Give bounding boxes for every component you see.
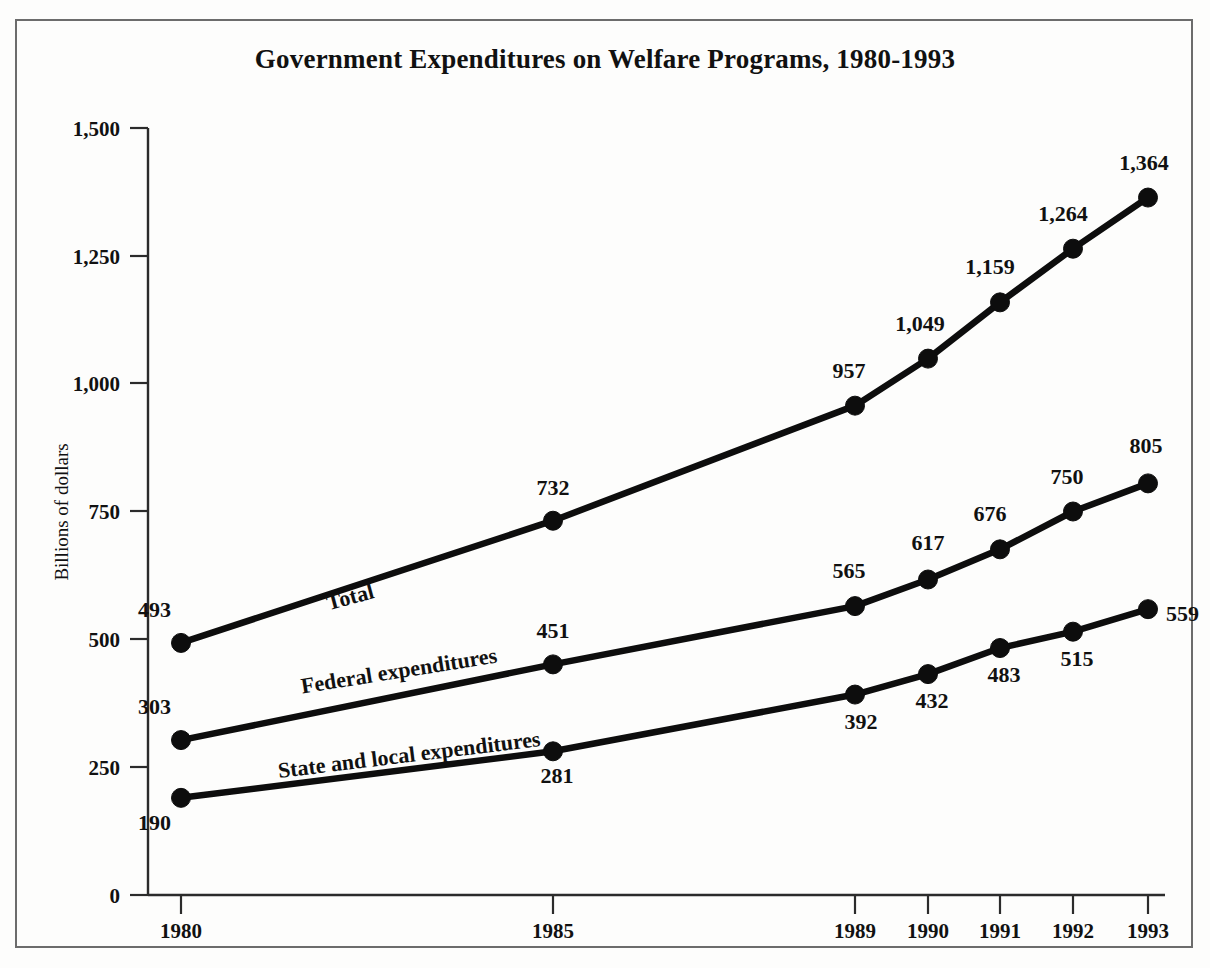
series-label-federal: Federal expenditures bbox=[299, 643, 499, 699]
y-tick-label-750: 750 bbox=[89, 500, 121, 524]
x-axis-ticks bbox=[181, 895, 1148, 914]
y-tick-label-250: 250 bbox=[89, 756, 121, 780]
y-tick-label-500: 500 bbox=[89, 628, 121, 652]
line-chart-plot: Billions of dollars 1,500 1,250 1,000 75… bbox=[0, 0, 1210, 968]
data-point-label: 281 bbox=[541, 763, 574, 788]
data-point-label: 957 bbox=[833, 358, 866, 383]
x-tick-label-1980: 1980 bbox=[160, 919, 202, 943]
data-point-label: 617 bbox=[912, 530, 945, 555]
data-point-label: 805 bbox=[1130, 433, 1163, 458]
x-tick-label-1985: 1985 bbox=[532, 919, 574, 943]
data-point-label: 432 bbox=[916, 688, 949, 713]
data-point-label: 451 bbox=[537, 618, 570, 643]
data-point-label: 515 bbox=[1061, 646, 1094, 671]
data-point-label: 559 bbox=[1166, 601, 1199, 626]
data-point-marker bbox=[991, 293, 1010, 312]
data-point-label: 1,049 bbox=[895, 311, 945, 336]
data-point-label: 750 bbox=[1051, 464, 1084, 489]
data-point-marker bbox=[919, 665, 938, 684]
data-point-marker bbox=[846, 396, 865, 415]
data-point-label: 493 bbox=[138, 597, 171, 622]
data-point-label: 303 bbox=[138, 694, 171, 719]
series-label-total: Total bbox=[324, 578, 377, 615]
x-tick-label-1993: 1993 bbox=[1127, 919, 1169, 943]
x-axis-tick-labels: 1980 1985 1989 1990 1991 1992 1993 bbox=[160, 919, 1169, 943]
series-0: 4937329571,0491,1591,2641,364 bbox=[138, 150, 1169, 653]
data-point-marker bbox=[1139, 188, 1158, 207]
data-point-label: 483 bbox=[988, 662, 1021, 687]
data-point-label: 190 bbox=[138, 810, 171, 835]
x-tick-label-1992: 1992 bbox=[1052, 919, 1094, 943]
data-point-marker bbox=[172, 633, 191, 652]
data-point-marker bbox=[991, 639, 1010, 658]
data-point-marker bbox=[172, 731, 191, 750]
y-axis-ticks bbox=[130, 128, 148, 895]
x-tick-label-1990: 1990 bbox=[907, 919, 949, 943]
y-tick-label-0: 0 bbox=[110, 884, 121, 908]
data-point-marker bbox=[846, 685, 865, 704]
data-point-marker bbox=[544, 511, 563, 530]
data-point-marker bbox=[1064, 502, 1083, 521]
data-point-marker bbox=[1139, 474, 1158, 493]
data-point-marker bbox=[544, 742, 563, 761]
x-tick-label-1989: 1989 bbox=[834, 919, 876, 943]
data-point-label: 1,264 bbox=[1038, 201, 1088, 226]
data-point-marker bbox=[919, 349, 938, 368]
data-point-marker bbox=[544, 655, 563, 674]
x-tick-label-1991: 1991 bbox=[979, 919, 1021, 943]
chart-page: Government Expenditures on Welfare Progr… bbox=[0, 0, 1210, 968]
data-point-marker bbox=[1139, 600, 1158, 619]
data-point-marker bbox=[991, 540, 1010, 559]
series-label-state-local: State and local expenditures bbox=[276, 726, 542, 783]
data-point-marker bbox=[846, 597, 865, 616]
data-point-label: 392 bbox=[845, 709, 878, 734]
data-point-label: 676 bbox=[974, 501, 1007, 526]
data-point-marker bbox=[172, 788, 191, 807]
y-tick-label-1000: 1,000 bbox=[73, 372, 120, 396]
data-point-marker bbox=[1064, 239, 1083, 258]
y-axis-tick-labels: 1,500 1,250 1,000 750 500 250 0 bbox=[73, 117, 120, 908]
data-point-marker bbox=[1064, 622, 1083, 641]
y-tick-label-1250: 1,250 bbox=[73, 245, 120, 269]
y-axis-label: Billions of dollars bbox=[51, 443, 72, 580]
data-point-label: 732 bbox=[537, 475, 570, 500]
data-point-label: 1,159 bbox=[965, 254, 1015, 279]
data-point-label: 565 bbox=[833, 558, 866, 583]
data-point-marker bbox=[919, 570, 938, 589]
series-layer: 4937329571,0491,1591,2641,36430345156561… bbox=[138, 150, 1199, 835]
y-tick-label-1500: 1,500 bbox=[73, 117, 120, 141]
data-point-label: 1,364 bbox=[1119, 150, 1169, 175]
